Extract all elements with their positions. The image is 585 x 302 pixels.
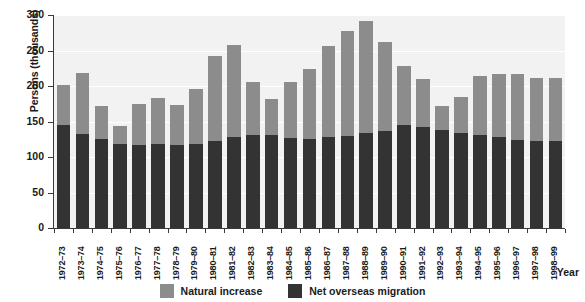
bar-segment-net-overseas-migration bbox=[57, 125, 71, 228]
bar-segment-natural-increase bbox=[511, 74, 525, 140]
x-axis-tick bbox=[149, 229, 150, 233]
bar-segment-natural-increase bbox=[132, 104, 146, 145]
y-axis-tick-label: 200 bbox=[0, 79, 44, 91]
bar-segment-natural-increase bbox=[170, 105, 184, 145]
bar-segment-natural-increase bbox=[284, 82, 298, 138]
bar-segment-net-overseas-migration bbox=[378, 131, 392, 228]
bar-column[interactable] bbox=[76, 73, 90, 228]
bar-segment-net-overseas-migration bbox=[189, 144, 203, 228]
y-axis-tick-label: 0 bbox=[0, 221, 44, 233]
x-axis-tick bbox=[205, 229, 206, 233]
x-axis-tick-label: 1991–92 bbox=[417, 246, 427, 280]
x-axis-tick-label: 1973–74 bbox=[76, 246, 86, 280]
x-axis-tick-label: 1974–75 bbox=[95, 246, 105, 280]
bar-column[interactable] bbox=[341, 31, 355, 228]
x-axis-tick-label: 1981–82 bbox=[227, 246, 237, 280]
x-axis-tick bbox=[224, 229, 225, 233]
x-axis-tick-label: 1992–93 bbox=[435, 246, 445, 280]
bar-segment-net-overseas-migration bbox=[284, 138, 298, 228]
bar-column[interactable] bbox=[57, 85, 71, 228]
x-axis-tick-label: 1977–78 bbox=[152, 246, 162, 280]
x-axis-tick-label: 1975–76 bbox=[114, 246, 124, 280]
bar-segment-natural-increase bbox=[303, 69, 317, 139]
x-axis-tick bbox=[451, 229, 452, 233]
x-axis-tick bbox=[470, 229, 471, 233]
bar-column[interactable] bbox=[95, 106, 109, 228]
bar-segment-net-overseas-migration bbox=[265, 135, 279, 228]
bar-segment-net-overseas-migration bbox=[435, 130, 449, 228]
x-axis-tick-label: 1978–79 bbox=[171, 246, 181, 280]
bar-segment-natural-increase bbox=[227, 45, 241, 137]
legend-item[interactable]: Net overseas migration bbox=[288, 284, 425, 298]
y-axis-title: Persons (thousands) bbox=[28, 0, 40, 151]
bar-column[interactable] bbox=[284, 82, 298, 228]
x-axis-tick-label: 1982–83 bbox=[246, 246, 256, 280]
x-axis-tick-label: 1983–84 bbox=[265, 246, 275, 280]
bar-column[interactable] bbox=[378, 42, 392, 228]
bar-column[interactable] bbox=[132, 104, 146, 228]
bar-segment-net-overseas-migration bbox=[76, 134, 90, 228]
bar-column[interactable] bbox=[113, 126, 127, 228]
bar-column[interactable] bbox=[359, 21, 373, 228]
x-axis-title: Year bbox=[557, 266, 579, 278]
legend-swatch-net-overseas-migration bbox=[288, 284, 302, 298]
bar-segment-net-overseas-migration bbox=[492, 137, 506, 228]
bar-segment-net-overseas-migration bbox=[511, 140, 525, 228]
bar-column[interactable] bbox=[416, 79, 430, 228]
y-axis-tick-label: 100 bbox=[0, 150, 44, 162]
bar-segment-natural-increase bbox=[76, 73, 90, 133]
bar-column[interactable] bbox=[397, 66, 411, 228]
x-axis-tick-label: 1984–85 bbox=[284, 246, 294, 280]
bar-column[interactable] bbox=[151, 98, 165, 228]
x-axis-tick-label: 1995–96 bbox=[492, 246, 502, 280]
bar-segment-net-overseas-migration bbox=[473, 135, 487, 228]
x-axis-tick-label: 1994–95 bbox=[473, 246, 483, 280]
bar-segment-natural-increase bbox=[113, 126, 127, 144]
x-axis-tick-label: 1988–89 bbox=[360, 246, 370, 280]
bar-segment-net-overseas-migration bbox=[359, 133, 373, 228]
bar-column[interactable] bbox=[492, 74, 506, 228]
x-axis-tick-label: 1972–73 bbox=[57, 246, 67, 280]
x-axis-tick bbox=[357, 229, 358, 233]
bar-column[interactable] bbox=[549, 78, 563, 228]
bar-column[interactable] bbox=[530, 78, 544, 228]
x-axis-tick-label: 1976–77 bbox=[133, 246, 143, 280]
bar-segment-natural-increase bbox=[378, 42, 392, 131]
x-axis-tick bbox=[111, 229, 112, 233]
x-axis-tick-label: 1987–88 bbox=[341, 246, 351, 280]
y-axis-tick-label: 250 bbox=[0, 44, 44, 56]
bar-column[interactable] bbox=[473, 76, 487, 228]
bar-column[interactable] bbox=[265, 99, 279, 228]
bar-segment-net-overseas-migration bbox=[303, 139, 317, 228]
bar-column[interactable] bbox=[189, 89, 203, 228]
x-axis-tick bbox=[73, 229, 74, 233]
bar-column[interactable] bbox=[227, 45, 241, 228]
x-axis-tick-label: 1996–97 bbox=[511, 246, 521, 280]
y-axis-tick-label: 150 bbox=[0, 115, 44, 127]
bar-segment-net-overseas-migration bbox=[341, 136, 355, 228]
x-axis-tick bbox=[565, 229, 566, 233]
x-axis-tick-label: 1993–94 bbox=[454, 246, 464, 280]
bar-column[interactable] bbox=[208, 56, 222, 228]
bar-segment-net-overseas-migration bbox=[227, 137, 241, 228]
bar-segment-natural-increase bbox=[341, 31, 355, 136]
x-axis-tick bbox=[92, 229, 93, 233]
bar-column[interactable] bbox=[511, 74, 525, 228]
bar-segment-natural-increase bbox=[435, 106, 449, 130]
x-axis-tick-label: 1990–91 bbox=[398, 246, 408, 280]
x-axis-tick bbox=[168, 229, 169, 233]
bar-column[interactable] bbox=[246, 82, 260, 228]
bar-column[interactable] bbox=[303, 69, 317, 228]
x-axis-tick bbox=[508, 229, 509, 233]
bar-segment-net-overseas-migration bbox=[530, 141, 544, 228]
x-axis-tick bbox=[281, 229, 282, 233]
bar-column[interactable] bbox=[435, 106, 449, 228]
bar-column[interactable] bbox=[454, 97, 468, 228]
bar-segment-net-overseas-migration bbox=[170, 145, 184, 228]
legend-item[interactable]: Natural increase bbox=[160, 284, 263, 298]
bar-column[interactable] bbox=[322, 46, 336, 228]
x-axis-tick bbox=[546, 229, 547, 233]
x-axis-tick-label: 1985–86 bbox=[303, 246, 313, 280]
bar-column[interactable] bbox=[170, 105, 184, 228]
bar-segment-net-overseas-migration bbox=[416, 127, 430, 228]
